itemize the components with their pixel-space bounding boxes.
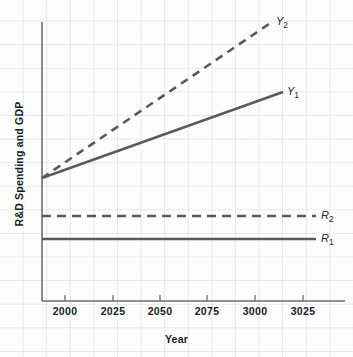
series-label-y2-subscript: 2	[283, 20, 288, 30]
x-tick-label-2025: 2025	[87, 305, 139, 317]
series-label-r1-text: R	[321, 232, 329, 244]
series-label-r1: R1	[321, 232, 334, 247]
series-label-r2: R2	[321, 209, 334, 224]
x-tick-label-3025: 3025	[277, 305, 329, 317]
chart-screenshot: 2000 2025 2050 2075 3000 3025 Year R&D S…	[0, 0, 353, 357]
series-label-r1-subscript: 1	[329, 237, 334, 247]
series-label-r2-subscript: 2	[329, 214, 334, 224]
series-label-y2: Y2	[276, 15, 288, 30]
series-line-y2	[42, 22, 272, 178]
x-tick-label-3000: 3000	[229, 305, 281, 317]
chart-plot-area	[0, 0, 353, 357]
series-label-y1-subscript: 1	[294, 90, 299, 100]
series-label-y1: Y1	[287, 85, 299, 100]
x-tick-label-2050: 2050	[134, 305, 186, 317]
series-line-y1	[42, 92, 283, 178]
x-axis-ticks	[65, 295, 303, 301]
x-tick-label-2075: 2075	[181, 305, 233, 317]
x-tick-label-2000: 2000	[39, 305, 91, 317]
series-label-r2-text: R	[321, 209, 329, 221]
y-axis-title: R&D Spending and GDP	[13, 84, 25, 244]
x-axis-title: Year	[0, 333, 353, 345]
